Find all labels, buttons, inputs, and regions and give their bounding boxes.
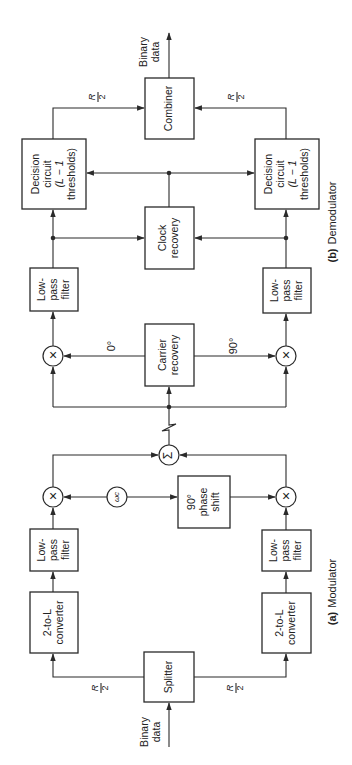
svg-text:thresholds): thresholds) xyxy=(65,148,77,200)
svg-text:2: 2 xyxy=(100,685,110,690)
svg-text:pass: pass xyxy=(47,539,59,561)
mod-rate-bottom: R 2 xyxy=(225,683,245,693)
phase-0-label: 0° xyxy=(105,341,117,352)
svg-text:shift: shift xyxy=(209,492,221,511)
input-label: Binary data xyxy=(138,716,162,747)
splitter-to-conv-bottom xyxy=(194,654,286,677)
svg-text:filter: filter xyxy=(291,540,303,560)
svg-text:R: R xyxy=(226,93,236,100)
svg-text:pass: pass xyxy=(47,278,59,300)
svg-text:filter: filter xyxy=(59,279,71,299)
svg-text:R: R xyxy=(90,684,100,691)
sigma-icon: Σ xyxy=(161,452,175,459)
mixer-top-to-sum xyxy=(53,455,158,487)
svg-text:Low-: Low- xyxy=(35,278,47,301)
svg-text:thresholds): thresholds) xyxy=(298,148,310,200)
svg-text:recovery: recovery xyxy=(168,334,180,375)
svg-text:data: data xyxy=(149,42,161,63)
decision-bottom-to-combiner xyxy=(195,108,286,139)
multiply-icon: × xyxy=(49,488,57,504)
demodulator-caption: (b)Demodulator xyxy=(326,181,338,262)
svg-text:Binary: Binary xyxy=(137,36,149,67)
output-label: Binary data xyxy=(137,36,161,67)
carrier-recovery-label: Carrier recovery xyxy=(156,334,180,375)
modulator-caption: (a)Modulator xyxy=(326,558,338,625)
demod-lpf-bottom-label: Low- pass filter xyxy=(268,279,304,302)
splitter-to-conv-top xyxy=(53,654,144,677)
omega-c-label: ωc xyxy=(112,492,121,502)
svg-text:pass: pass xyxy=(280,279,292,301)
svg-text:Low-: Low- xyxy=(268,279,280,302)
svg-text:data: data xyxy=(150,722,162,743)
svg-text:2: 2 xyxy=(97,94,107,99)
svg-text:Clock: Clock xyxy=(156,224,168,251)
svg-text:Low-: Low- xyxy=(267,539,279,562)
multiply-icon: × xyxy=(49,347,57,363)
demod-lpf-top-label: Low- pass filter xyxy=(35,278,71,301)
svg-text:2-to-L: 2-to-L xyxy=(41,609,53,637)
svg-text:recovery: recovery xyxy=(168,217,180,258)
svg-text:(L − 1: (L − 1 xyxy=(286,161,298,188)
svg-text:filter: filter xyxy=(59,540,71,560)
qam-block-diagram: Binary data Combiner R 2 R 2 Decision ci… xyxy=(0,0,352,765)
phase-90-label: 90° xyxy=(227,338,239,355)
svg-text:R: R xyxy=(87,93,97,100)
svg-text:circuit: circuit xyxy=(41,160,53,188)
decision-top-to-combiner xyxy=(53,108,144,139)
svg-text:Low-: Low- xyxy=(35,538,47,561)
mod-lpf-bottom-label: Low- pass filter xyxy=(267,539,303,562)
channel-zigzag xyxy=(162,407,176,445)
mod-rate-top: R 2 xyxy=(90,683,110,693)
svg-text:2: 2 xyxy=(235,685,245,690)
multiply-icon: × xyxy=(282,347,290,363)
svg-text:phase: phase xyxy=(197,488,209,517)
svg-text:Decision: Decision xyxy=(262,154,274,194)
svg-text:converter: converter xyxy=(285,601,297,645)
demod-rate-bottom: R 2 xyxy=(226,92,246,102)
svg-text:90°: 90° xyxy=(185,494,197,510)
svg-text:(a)Modulator: (a)Modulator xyxy=(326,558,338,625)
combiner-label: Combiner xyxy=(162,85,174,131)
svg-text:2: 2 xyxy=(236,94,246,99)
multiply-icon: × xyxy=(282,488,290,504)
svg-text:(L − 1: (L − 1 xyxy=(53,161,65,188)
mod-lpf-top-label: Low- pass filter xyxy=(35,538,71,561)
svg-text:2-to-L: 2-to-L xyxy=(273,609,285,637)
svg-text:pass: pass xyxy=(279,539,291,561)
svg-text:Binary: Binary xyxy=(138,716,150,747)
splitter-label: Splitter xyxy=(162,660,174,693)
svg-text:R: R xyxy=(225,684,235,691)
svg-text:(b)Demodulator: (b)Demodulator xyxy=(326,181,338,262)
svg-text:circuit: circuit xyxy=(274,160,286,188)
svg-text:filter: filter xyxy=(292,280,304,300)
svg-text:Decision: Decision xyxy=(29,154,41,194)
svg-text:converter: converter xyxy=(53,600,65,644)
demod-rate-top: R 2 xyxy=(87,92,107,102)
svg-text:Carrier: Carrier xyxy=(156,338,168,371)
